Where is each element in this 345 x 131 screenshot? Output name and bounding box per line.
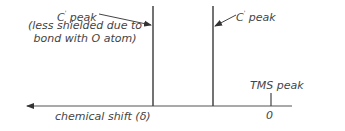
- nmr-diagram: C' peak (less shielded due to bond with …: [0, 0, 345, 131]
- tms-peak-label: TMS peak: [250, 79, 304, 92]
- right-peak-label: C' peak: [236, 6, 276, 24]
- left-peak-note: (less shielded due to bond with O atom): [20, 19, 150, 45]
- left-peak-note-line2: bond with O atom): [20, 32, 150, 45]
- right-peak-pointer: [215, 15, 236, 26]
- axis-label: chemical shift (δ): [55, 110, 151, 123]
- left-peak-note-line1: (less shielded due to: [20, 19, 150, 32]
- zero-tick-label: 0: [266, 109, 273, 122]
